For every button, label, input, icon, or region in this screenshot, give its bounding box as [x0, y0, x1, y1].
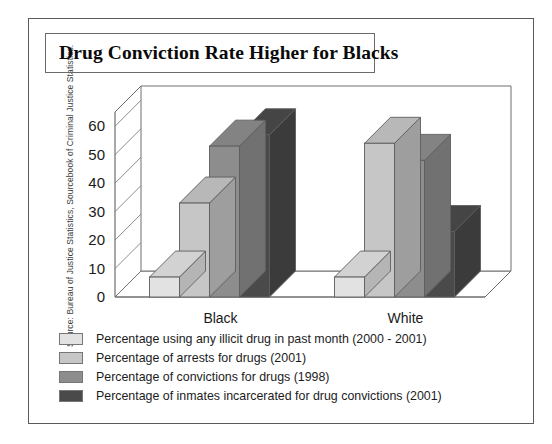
y-tick-label: 30: [88, 203, 105, 220]
x-category-label: Black: [203, 310, 238, 326]
legend-item-1: Percentage using any illicit drug in pas…: [59, 329, 519, 348]
figure-frame: Source: Bureau of Justice Statistics, So…: [28, 18, 534, 424]
legend-item-2: Percentage of arrests for drugs (2001): [59, 348, 519, 367]
y-tick-label: 20: [88, 231, 105, 248]
legend-label: Percentage of arrests for drugs (2001): [96, 351, 306, 365]
legend-swatch-icon: [59, 390, 83, 402]
y-tick-label: 10: [88, 260, 105, 277]
y-tick-label: 60: [88, 117, 105, 134]
legend-label: Percentage of inmates incarcerated for d…: [96, 389, 442, 403]
chart-legend: Percentage using any illicit drug in pas…: [59, 329, 519, 405]
legend-swatch-icon: [59, 352, 83, 364]
chart-title-box: Drug Conviction Rate Higher for Blacks: [45, 33, 375, 73]
chart-plot-area: 0102030405060 BlackWhite: [43, 85, 521, 330]
y-tick-label: 0: [97, 288, 105, 305]
legend-item-3: Percentage of convictions for drugs (199…: [59, 367, 519, 386]
page-title: Drug Conviction Rate Higher for Blacks: [59, 42, 398, 64]
legend-label: Percentage of convictions for drugs (199…: [96, 370, 330, 384]
legend-swatch-icon: [59, 371, 83, 383]
x-axis-category-labels: BlackWhite: [203, 310, 423, 326]
x-category-label: White: [388, 310, 424, 326]
bar-chart-svg: 0102030405060 BlackWhite: [43, 85, 521, 330]
legend-swatch-icon: [59, 333, 83, 345]
y-tick-label: 50: [88, 146, 105, 163]
y-axis-tick-labels: 0102030405060: [88, 117, 105, 305]
y-tick-label: 40: [88, 174, 105, 191]
legend-label: Percentage using any illicit drug in pas…: [96, 332, 427, 346]
legend-item-4: Percentage of inmates incarcerated for d…: [59, 386, 519, 405]
